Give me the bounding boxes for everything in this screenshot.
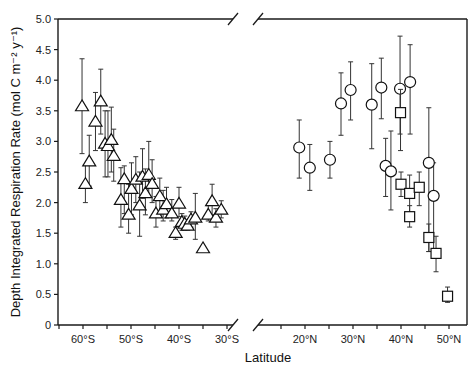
y-tick-label: 1.5: [36, 227, 51, 239]
x-tick-label: 30°N: [341, 333, 366, 345]
x-tick-label: 50°S: [119, 333, 143, 345]
data-marks: [76, 36, 453, 302]
scatter-chart: 00.51.01.52.02.53.03.54.04.55.060°S50°S4…: [0, 0, 474, 377]
x-tick-label: 40°N: [389, 333, 414, 345]
data-point-triangle: [79, 178, 92, 189]
data-point-triangle: [107, 150, 120, 161]
data-point-triangle: [153, 190, 166, 201]
data-point-triangle: [118, 173, 131, 184]
x-tick-label: 40°S: [167, 333, 191, 345]
y-tick-label: 5.0: [36, 13, 51, 25]
data-point-square: [443, 291, 453, 301]
data-point-triangle: [76, 100, 89, 111]
y-tick-label: 2.5: [36, 166, 51, 178]
y-tick-label: 3.5: [36, 105, 51, 117]
data-point-circle: [423, 157, 434, 168]
y-tick-label: 2.0: [36, 197, 51, 209]
data-point-square: [424, 232, 434, 242]
data-point-square: [414, 182, 424, 192]
data-point-circle: [304, 162, 315, 173]
data-point-circle: [336, 98, 347, 109]
data-point-circle: [405, 77, 416, 88]
data-point-triangle: [89, 115, 102, 126]
data-point-circle: [345, 84, 356, 95]
series-square: [396, 89, 453, 302]
x-tick-label: 20°N: [293, 333, 318, 345]
data-point-square: [396, 108, 406, 118]
data-point-circle: [376, 82, 387, 93]
data-point-triangle: [94, 95, 107, 106]
series-circle: [294, 36, 439, 258]
data-point-triangle: [173, 197, 186, 208]
y-tick-label: 1.0: [36, 258, 51, 270]
y-tick-label: 4.5: [36, 44, 51, 56]
data-point-square: [431, 248, 441, 258]
x-tick-label: 50°N: [437, 333, 462, 345]
y-tick-label: 0: [45, 319, 51, 331]
data-point-circle: [324, 154, 335, 165]
data-point-triangle: [114, 194, 127, 205]
y-tick-label: 4.0: [36, 74, 51, 86]
data-point-circle: [428, 190, 439, 201]
y-axis-title: Depth Integrated Respiration Rate (mol C…: [8, 27, 23, 318]
data-point-triangle: [133, 199, 146, 210]
x-tick-label: 60°S: [71, 333, 95, 345]
data-point-circle: [385, 166, 396, 177]
y-tick-label: 3.0: [36, 135, 51, 147]
data-point-triangle: [83, 155, 96, 166]
series-triangle: [76, 59, 228, 253]
data-point-square: [405, 212, 415, 222]
x-tick-label: 30°S: [215, 333, 239, 345]
data-point-square: [405, 188, 415, 198]
data-point-circle: [294, 142, 305, 153]
data-point-square: [396, 179, 406, 189]
data-point-triangle: [197, 242, 210, 253]
x-axis-title: Latitude: [245, 350, 291, 365]
data-point-triangle: [206, 195, 219, 206]
data-point-circle: [366, 99, 377, 110]
y-tick-label: 0.5: [36, 288, 51, 300]
